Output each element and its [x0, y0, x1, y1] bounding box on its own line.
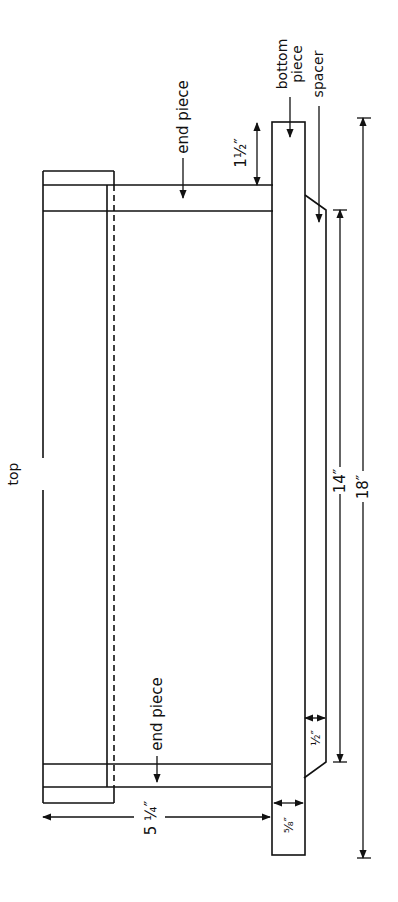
bottom-thickness-value: ⁵⁄₈″: [282, 816, 296, 833]
top-label: top: [5, 462, 21, 485]
top-board: [43, 171, 114, 803]
end-piece-top-callout: end piece: [174, 80, 192, 198]
dimension-overall-length: 18″: [354, 118, 372, 858]
spacer-callout: spacer: [310, 50, 326, 222]
end-piece-bottom-callout: end piece: [148, 677, 166, 782]
spacer: [304, 195, 326, 778]
end-piece-top-label: end piece: [174, 80, 192, 153]
dimension-spacer-length: 14″: [331, 210, 349, 762]
end-piece-top: [43, 185, 273, 211]
spacer-thickness-value: ½″: [309, 729, 323, 746]
dimension-bottom-thickness: ⁵⁄₈″: [274, 803, 303, 833]
dimension-end-offset: 1½″: [232, 123, 257, 185]
dimension-spacer-thickness: ½″: [305, 718, 325, 746]
bottom-piece-label-1: bottom: [274, 39, 290, 90]
end-piece-bottom-label: end piece: [148, 677, 166, 750]
height-value: 5 ¼″: [142, 800, 160, 835]
bottom-piece-label-2: piece: [289, 45, 305, 83]
box-assembly-diagram: top end piece end piece bottom piece spa…: [0, 0, 398, 902]
dimension-height: 5 ¼″: [43, 800, 270, 835]
spacer-label: spacer: [310, 50, 326, 97]
overall-length-value: 18″: [354, 474, 372, 499]
end-offset-value: 1½″: [232, 138, 250, 168]
spacer-length-value: 14″: [331, 468, 349, 493]
bottom-piece: [272, 122, 305, 855]
